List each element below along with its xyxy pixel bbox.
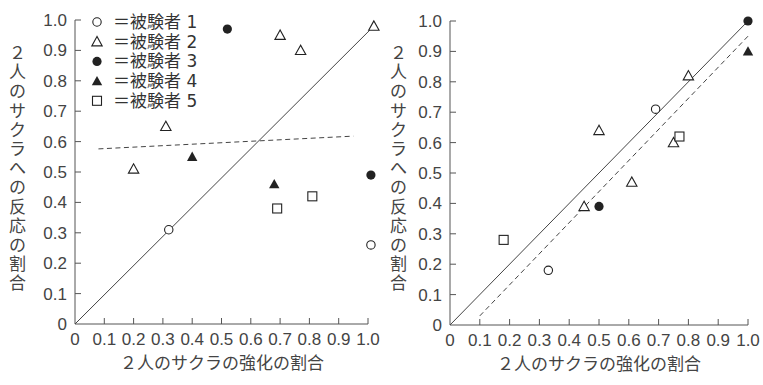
legend: ＝被験者 1＝被験者 2＝被験者 3＝被験者 4＝被験者 5	[92, 12, 197, 111]
y-axis-title-char: の	[390, 81, 407, 101]
x-tick-label: 0.6	[617, 331, 641, 350]
marker-open-triangle-icon	[627, 177, 637, 186]
series-被験者4	[187, 152, 279, 189]
x-axis-title: ２人のサクラの強化の割合	[120, 353, 324, 373]
x-tick-label: 0.7	[647, 331, 671, 350]
x-tick-label: 0.1	[468, 331, 492, 350]
y-tick-label: 0.4	[418, 194, 442, 213]
x-tick-label: 0.2	[122, 330, 146, 349]
marker-open-circle-icon	[544, 266, 552, 274]
x-tick-label: 0.6	[239, 330, 263, 349]
legend-label: ＝被験者 2	[113, 32, 197, 52]
x-tick-label: 1.0	[356, 330, 380, 349]
legend-label: ＝被験者 3	[113, 51, 197, 71]
marker-open-circle-icon	[367, 241, 375, 249]
y-axis-title-char: 応	[9, 216, 26, 236]
series-被験者5	[499, 132, 684, 244]
x-tick-label: 0.3	[151, 330, 175, 349]
marker-filled-circle-icon	[92, 57, 101, 66]
y-tick-label: 0.7	[43, 102, 67, 121]
marker-open-square-icon	[273, 204, 282, 213]
series-被験者1	[165, 226, 376, 250]
x-axis-title: ２人のサクラの強化の割合	[497, 354, 701, 374]
y-axis-title: ２人のサクラへの反応の割合	[390, 43, 407, 293]
y-axis-title-char: へ	[9, 158, 26, 178]
marker-open-square-icon	[93, 96, 102, 105]
y-axis-title-char: ク	[9, 120, 26, 140]
y-tick-label: 0.5	[418, 164, 442, 183]
marker-open-triangle-icon	[594, 125, 604, 134]
left-scatter-chart: 00.10.20.30.40.50.60.70.80.91.000.10.20.…	[9, 11, 380, 373]
y-tick-label: 0.1	[43, 285, 67, 304]
y-tick-label: 0.1	[418, 286, 442, 305]
figure: 00.10.20.30.40.50.60.70.80.91.000.10.20.…	[0, 0, 763, 385]
marker-open-triangle-icon	[295, 45, 305, 54]
y-axis-title-char: 人	[390, 62, 407, 82]
marker-filled-triangle-icon	[92, 76, 102, 85]
x-tick-label: 0	[445, 331, 454, 350]
x-tick-label: 0.2	[498, 331, 522, 350]
marker-filled-triangle-icon	[269, 179, 279, 188]
x-tick-label: 0.5	[210, 330, 234, 349]
marker-filled-circle-icon	[366, 170, 375, 179]
y-tick-label: 0.4	[43, 193, 67, 212]
marker-open-triangle-icon	[128, 164, 138, 173]
right-scatter-chart: 00.10.20.30.40.50.60.70.80.91.000.10.20.…	[390, 12, 760, 374]
y-tick-label: 0.6	[418, 134, 442, 153]
x-tick-label: 0.9	[327, 330, 351, 349]
y-tick-label: 0.3	[43, 224, 67, 243]
y-axis-title-char: 割	[9, 254, 26, 274]
marker-filled-triangle-icon	[743, 46, 753, 55]
legend-label: ＝被験者 1	[113, 12, 197, 32]
y-axis-title-char: ２	[390, 43, 407, 63]
x-tick-label: 0.9	[706, 331, 730, 350]
y-axis-title-char: ラ	[9, 139, 26, 159]
marker-open-triangle-icon	[92, 37, 102, 46]
x-tick-label: 0.5	[587, 331, 611, 350]
marker-open-circle-icon	[93, 18, 101, 26]
x-tick-label: 0	[70, 330, 79, 349]
dashed-fit-line	[98, 136, 353, 149]
marker-open-square-icon	[308, 192, 317, 201]
legend-label: ＝被験者 5	[113, 91, 197, 111]
y-axis-title-char: 割	[390, 254, 407, 274]
marker-open-circle-icon	[651, 105, 659, 113]
x-tick-label: 1.0	[736, 331, 760, 350]
x-tick-label: 0.3	[528, 331, 552, 350]
marker-open-triangle-icon	[369, 21, 379, 30]
marker-open-square-icon	[499, 235, 508, 244]
series-被験者5	[273, 192, 317, 213]
y-tick-label: 0.5	[43, 163, 67, 182]
marker-filled-triangle-icon	[187, 152, 197, 161]
y-axis-title-char: の	[390, 177, 407, 197]
marker-open-triangle-icon	[161, 121, 171, 130]
marker-open-triangle-icon	[683, 71, 693, 80]
marker-filled-circle-icon	[743, 16, 752, 25]
y-tick-label: 0.2	[43, 254, 67, 273]
series-被験者3	[594, 16, 752, 211]
y-axis-title-char: 合	[390, 273, 407, 293]
y-tick-label: 0	[58, 315, 67, 334]
y-tick-label: 0	[433, 316, 442, 335]
y-axis-title-char: サ	[390, 101, 407, 121]
y-axis-title-char: の	[9, 81, 26, 101]
solid-diagonal-line	[450, 21, 748, 325]
x-tick-label: 0.8	[298, 330, 322, 349]
x-tick-label: 0.8	[677, 331, 701, 350]
y-axis-title-char: 反	[9, 197, 26, 217]
y-tick-label: 0.8	[43, 72, 67, 91]
y-tick-label: 0.7	[418, 103, 442, 122]
dashed-fit-line	[480, 36, 748, 316]
legend-label: ＝被験者 4	[113, 71, 197, 91]
y-axis-title-char: の	[9, 177, 26, 197]
y-axis-title-char: 応	[390, 216, 407, 236]
y-axis-title-char: 反	[390, 197, 407, 217]
y-axis-title-char: ２	[9, 43, 26, 63]
y-axis-title-char: 合	[9, 273, 26, 293]
y-tick-label: 0.2	[418, 255, 442, 274]
y-axis-title-char: サ	[9, 101, 26, 121]
y-axis-title-char: の	[9, 235, 26, 255]
y-axis-title-char: ク	[390, 120, 407, 140]
y-axis-title-char: ラ	[390, 139, 407, 159]
series-被験者4	[743, 46, 753, 55]
